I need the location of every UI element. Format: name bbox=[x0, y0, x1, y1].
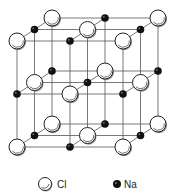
na-atom bbox=[137, 26, 145, 34]
na-atom bbox=[119, 90, 127, 98]
na-atom bbox=[13, 90, 21, 98]
cl-atom bbox=[115, 139, 132, 156]
na-atom bbox=[137, 132, 145, 140]
cl-atom bbox=[97, 63, 114, 80]
cl-atom bbox=[150, 116, 167, 133]
legend-item-na: Na bbox=[113, 179, 137, 190]
cl-atom bbox=[115, 33, 132, 50]
na-atom bbox=[31, 26, 39, 34]
cl-atom bbox=[9, 33, 26, 50]
lattice-atoms bbox=[9, 10, 167, 156]
cl-atom bbox=[9, 139, 26, 156]
cl-atom bbox=[62, 86, 79, 103]
na-atom bbox=[84, 79, 92, 87]
cl-atom bbox=[80, 128, 97, 145]
legend-item-cl: Cl bbox=[39, 178, 67, 192]
na-atom bbox=[101, 14, 109, 22]
cl-atom bbox=[150, 10, 167, 27]
cl-atom bbox=[27, 75, 44, 92]
na-atom bbox=[66, 37, 74, 45]
legend-label-na: Na bbox=[124, 179, 137, 190]
na-atom bbox=[66, 143, 74, 151]
cl-atom bbox=[44, 10, 61, 27]
na-sphere-icon bbox=[113, 180, 121, 188]
na-atom bbox=[101, 120, 109, 128]
na-atom bbox=[48, 67, 56, 75]
nacl-crystal-lattice: Cl Na bbox=[0, 0, 172, 194]
cl-sphere-icon-body bbox=[39, 178, 52, 191]
cl-atom bbox=[44, 116, 61, 133]
na-atom bbox=[154, 67, 162, 75]
legend: Cl Na bbox=[39, 178, 138, 192]
cl-atom bbox=[80, 22, 97, 39]
na-atom bbox=[31, 132, 39, 140]
legend-label-cl: Cl bbox=[57, 179, 66, 190]
cl-atom bbox=[133, 75, 150, 92]
